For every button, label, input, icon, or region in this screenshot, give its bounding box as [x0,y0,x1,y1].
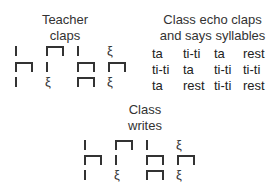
quarter-rest-icon: ξ [107,75,113,88]
quarter-note-icon [15,46,17,56]
syllable-ti-ti: ti-ti [243,62,260,77]
echo-title-line2: and says syllables [150,28,275,44]
eighth-note-pair-icon [15,62,33,72]
writes-title-line1: Class [100,102,190,118]
quarter-note-icon [146,140,148,150]
syllable-ta: ta [152,78,163,93]
quarter-note-icon [15,77,17,87]
quarter-rest-icon: ξ [114,168,120,181]
eighth-note-pair-icon [77,62,95,72]
teacher-title-line1: Teacher [20,12,110,28]
eighth-note-pair-icon [146,170,164,180]
syllable-ti-ti: ti-ti [214,78,231,93]
eighth-note-pair-icon [146,155,164,165]
syllable-rest: rest [183,78,205,93]
syllable-rest: rest [243,46,265,61]
writes-title-line2: writes [100,118,190,134]
syllable-ta: ta [183,62,194,77]
quarter-note-icon [84,170,86,180]
writes-title: Class writes [100,102,190,134]
quarter-rest-icon: ξ [176,168,182,181]
syllable-ti-ti: ti-ti [214,62,231,77]
syllable-ta: ta [214,46,225,61]
teacher-title: Teacher claps [20,12,110,44]
quarter-rest-icon: ξ [176,138,182,151]
eighth-note-pair-icon [177,155,195,165]
syllable-rest: rest [243,78,265,93]
syllable-ta: ta [152,46,163,61]
quarter-note-icon [46,62,48,72]
teacher-title-line2: claps [20,28,110,44]
quarter-note-icon [77,46,79,56]
eighth-note-pair-icon [84,155,102,165]
syllable-ti-ti: ti-ti [183,46,200,61]
eighth-note-pair-icon [46,46,64,56]
eighth-note-pair-icon [77,77,95,87]
syllable-ti-ti: ti-ti [152,62,169,77]
quarter-rest-icon: ξ [45,75,51,88]
echo-title-line1: Class echo claps [150,12,275,28]
eighth-note-pair-icon [108,62,126,72]
eighth-note-pair-icon [115,140,133,150]
echo-title: Class echo claps and says syllables [150,12,275,44]
quarter-note-icon [84,140,86,150]
quarter-rest-icon: ξ [107,44,113,57]
quarter-note-icon [115,155,117,165]
